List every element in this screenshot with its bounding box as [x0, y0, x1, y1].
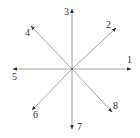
direction-label-8: 8 — [113, 100, 118, 111]
direction-label-3: 3 — [64, 6, 69, 17]
direction-vector-diagram: 12345678 — [0, 0, 140, 138]
direction-label-4: 4 — [25, 27, 30, 38]
direction-label-1: 1 — [127, 54, 132, 65]
direction-arrow-4 — [31, 26, 72, 69]
direction-arrow-2 — [72, 28, 116, 69]
direction-label-6: 6 — [33, 109, 38, 120]
direction-arrow-6 — [32, 69, 72, 110]
origin-point — [71, 68, 73, 70]
direction-label-2: 2 — [106, 19, 111, 30]
direction-label-7: 7 — [77, 121, 82, 132]
direction-label-5: 5 — [12, 71, 17, 82]
direction-arrow-8 — [72, 69, 112, 112]
